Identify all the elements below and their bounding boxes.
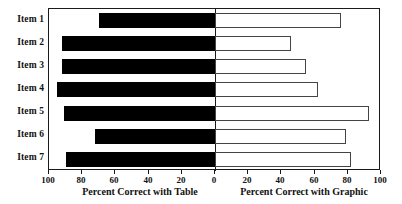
bar-row <box>49 102 381 125</box>
bar-graphic-4 <box>215 82 318 97</box>
category-label-7: Item 7 <box>2 152 44 162</box>
tick-mark <box>347 170 348 174</box>
category-label-3: Item 3 <box>2 60 44 70</box>
bar-row <box>49 9 381 32</box>
category-label-2: Item 2 <box>2 37 44 47</box>
bar-table-2 <box>62 36 215 51</box>
category-label-4: Item 4 <box>2 83 44 93</box>
bar-table-3 <box>62 59 215 74</box>
tick-label-8: 60 <box>310 175 319 185</box>
bar-table-7 <box>66 152 215 167</box>
bar-graphic-2 <box>215 36 291 51</box>
tick-label-6: 20 <box>243 175 252 185</box>
bar-row <box>49 148 381 171</box>
tick-mark <box>181 170 182 174</box>
bar-row <box>49 55 381 78</box>
tick-mark <box>280 170 281 174</box>
tick-label-5: 0 <box>212 175 217 185</box>
tick-label-3: 40 <box>144 175 153 185</box>
bar-table-6 <box>95 129 215 144</box>
bidirectional-bar-chart: Item 1Item 2Item 3Item 4Item 5Item 6Item… <box>0 0 402 204</box>
tick-mark <box>314 170 315 174</box>
tick-mark <box>48 170 49 174</box>
tick-mark <box>380 170 381 174</box>
bar-graphic-3 <box>215 59 306 74</box>
tick-mark <box>247 170 248 174</box>
x-axis-title-right: Percent Correct with Graphic <box>222 186 386 197</box>
bar-graphic-7 <box>215 152 351 167</box>
tick-mark <box>214 170 215 174</box>
tick-label-9: 80 <box>343 175 352 185</box>
bar-graphic-5 <box>215 106 369 121</box>
tick-label-0: 100 <box>41 175 55 185</box>
bar-row <box>49 78 381 101</box>
tick-label-10: 100 <box>373 175 387 185</box>
bar-row <box>49 32 381 55</box>
tick-mark <box>148 170 149 174</box>
tick-mark <box>114 170 115 174</box>
category-label-6: Item 6 <box>2 129 44 139</box>
plot-area <box>48 8 380 170</box>
bar-table-5 <box>64 106 215 121</box>
category-label-1: Item 1 <box>2 14 44 24</box>
bar-table-4 <box>57 82 215 97</box>
tick-label-4: 20 <box>177 175 186 185</box>
tick-mark <box>81 170 82 174</box>
tick-label-1: 80 <box>77 175 86 185</box>
tick-label-7: 40 <box>276 175 285 185</box>
bar-graphic-6 <box>215 129 346 144</box>
category-label-5: Item 5 <box>2 106 44 116</box>
bar-table-1 <box>99 13 215 28</box>
bar-row <box>49 125 381 148</box>
bar-graphic-1 <box>215 13 341 28</box>
tick-label-2: 60 <box>110 175 119 185</box>
x-axis-title-left: Percent Correct with Table <box>60 186 220 197</box>
